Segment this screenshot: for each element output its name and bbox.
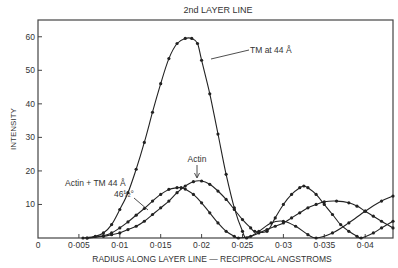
data-point	[237, 236, 240, 239]
data-point	[302, 184, 305, 187]
data-point	[126, 220, 129, 223]
annotation-tm: TM at 44 Å	[211, 45, 292, 59]
data-point	[391, 220, 394, 223]
data-point	[391, 194, 394, 197]
data-point	[253, 230, 256, 233]
data-point	[391, 226, 394, 229]
y-tick-label: 30	[26, 132, 36, 142]
data-point	[192, 180, 195, 183]
data-point	[359, 236, 362, 239]
data-point	[225, 198, 228, 201]
data-point	[298, 186, 301, 189]
y-axis: 102030405060	[26, 32, 42, 210]
data-point	[241, 218, 244, 221]
data-point	[306, 206, 309, 209]
data-point	[151, 213, 154, 216]
data-point	[355, 235, 358, 238]
data-point	[355, 205, 358, 208]
data-point	[175, 191, 178, 194]
x-tick-label: 0·03	[275, 240, 292, 250]
data-point	[216, 221, 219, 224]
data-point	[184, 184, 187, 187]
data-point	[298, 211, 301, 214]
x-tick-label: 0·04	[357, 240, 374, 250]
y-tick-label: 40	[26, 99, 36, 109]
data-point	[151, 200, 154, 203]
x-tick-label: 0	[36, 240, 41, 250]
data-point	[216, 132, 219, 135]
data-point	[331, 213, 334, 216]
chart-title: 2nd LAYER LINE	[184, 5, 253, 15]
data-point	[135, 214, 138, 217]
data-point	[184, 187, 187, 190]
data-point	[200, 59, 203, 62]
data-point	[225, 230, 228, 233]
x-tick-label: 0·015	[150, 240, 172, 250]
data-series	[81, 37, 394, 240]
x-tick-label: 0·02	[193, 240, 210, 250]
data-point	[135, 168, 138, 171]
plot-frame	[38, 20, 393, 238]
data-point	[274, 216, 277, 219]
y-tick-label: 10	[26, 199, 36, 209]
data-point	[315, 193, 318, 196]
annotation-actin-label: Actin	[188, 154, 207, 164]
data-point	[306, 186, 309, 189]
data-point	[200, 179, 203, 182]
data-point	[167, 200, 170, 203]
data-point	[135, 225, 138, 228]
data-point	[380, 226, 383, 229]
data-point	[143, 141, 146, 144]
y-tick-label: 50	[26, 65, 36, 75]
annotation-actin-tm: Actin + TM 44 Å 46½°	[65, 178, 148, 210]
data-point	[331, 231, 334, 234]
chart: 2nd LAYER LINE 102030405060 00·0050·010·…	[0, 0, 398, 268]
data-point	[282, 203, 285, 206]
data-point	[380, 200, 383, 203]
data-point	[184, 37, 187, 40]
data-point	[290, 216, 293, 219]
data-point	[118, 208, 121, 211]
x-tick-label: 0·035	[313, 240, 335, 250]
data-point	[190, 37, 193, 40]
data-point	[274, 225, 277, 228]
annotation-actin-tm-label: Actin + TM 44 Å	[65, 178, 126, 188]
x-axis-label: RADIUS ALONG LAYER LINE — RECIPROCAL ANG…	[92, 254, 332, 264]
data-point	[118, 226, 121, 229]
data-point	[208, 211, 211, 214]
series-0	[81, 37, 394, 240]
data-point	[233, 208, 236, 211]
data-point	[196, 42, 199, 45]
data-point	[347, 221, 350, 224]
data-point	[167, 57, 170, 60]
data-point	[257, 231, 260, 234]
data-point	[282, 221, 285, 224]
data-point	[290, 193, 293, 196]
data-point	[347, 230, 350, 233]
data-point	[151, 111, 154, 114]
data-point	[249, 226, 252, 229]
data-point	[306, 233, 309, 236]
x-tick-label: 0·01	[111, 240, 128, 250]
data-point	[159, 206, 162, 209]
data-point	[85, 236, 88, 239]
data-point	[347, 201, 350, 204]
data-point	[159, 193, 162, 196]
y-tick-label: 60	[26, 32, 36, 42]
data-point	[372, 231, 375, 234]
data-point	[372, 215, 375, 218]
data-point	[102, 234, 105, 237]
data-point	[81, 236, 84, 239]
x-tick-label: 0·025	[232, 240, 254, 250]
data-point	[225, 173, 228, 176]
data-point	[110, 231, 113, 234]
annotation-angle-label: 46½°	[114, 189, 134, 199]
data-point	[143, 220, 146, 223]
data-point	[241, 230, 244, 233]
data-point	[110, 223, 113, 226]
data-point	[315, 203, 318, 206]
data-point	[216, 189, 219, 192]
data-point	[335, 200, 338, 203]
series-line	[83, 38, 393, 238]
data-point	[380, 220, 383, 223]
